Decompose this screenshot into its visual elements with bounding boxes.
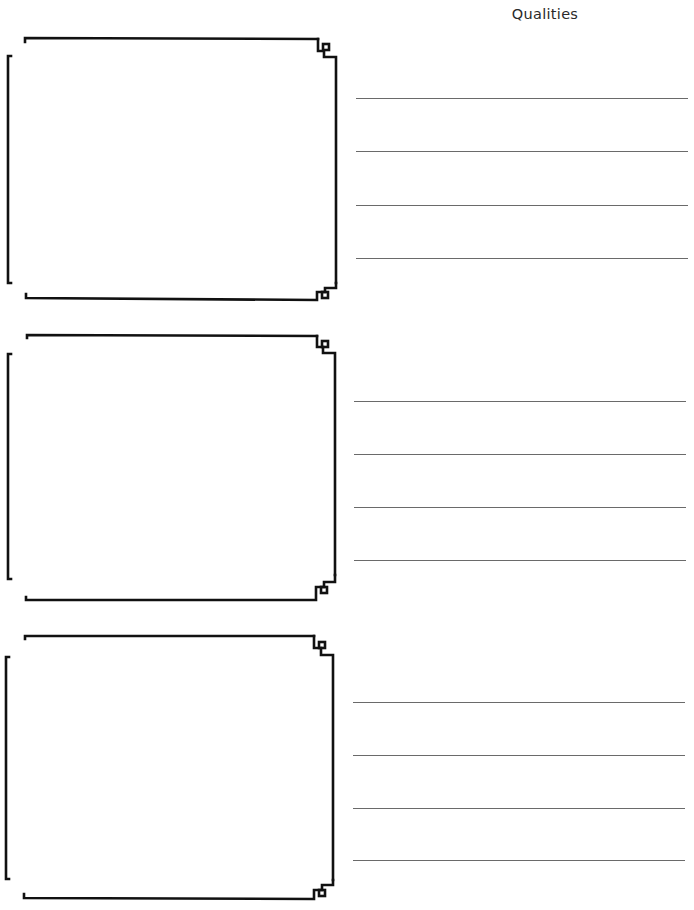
drawing-frame-1: [0, 30, 345, 305]
writing-line[interactable]: [356, 205, 688, 206]
greek-key-frame-icon: [0, 30, 345, 310]
writing-line[interactable]: [354, 560, 686, 561]
writing-line[interactable]: [356, 98, 688, 99]
writing-line[interactable]: [354, 507, 686, 508]
greek-key-frame-icon: [0, 627, 345, 907]
writing-line[interactable]: [356, 151, 688, 152]
writing-line[interactable]: [354, 401, 686, 402]
writing-line[interactable]: [353, 755, 685, 756]
writing-line[interactable]: [356, 258, 688, 259]
writing-line[interactable]: [353, 808, 685, 809]
writing-line[interactable]: [353, 702, 685, 703]
drawing-frame-2: [0, 327, 345, 602]
greek-key-frame-icon: [0, 327, 345, 607]
page-title: Qualities: [475, 6, 615, 22]
drawing-frame-3: [0, 627, 345, 902]
writing-line[interactable]: [354, 454, 686, 455]
writing-line[interactable]: [353, 860, 685, 861]
